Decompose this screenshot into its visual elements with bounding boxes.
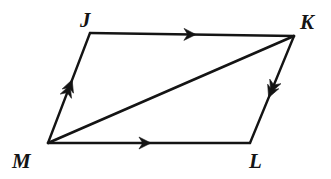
canvas-background (0, 0, 331, 179)
vertex-label-l: L (248, 149, 262, 173)
vertex-label-j: J (79, 8, 92, 32)
geometry-canvas: J K L M (0, 0, 331, 179)
vertex-label-m: M (11, 149, 32, 173)
geometry-figure-parallelogram-jklm: J K L M (0, 0, 331, 179)
vertex-label-k: K (299, 10, 316, 34)
